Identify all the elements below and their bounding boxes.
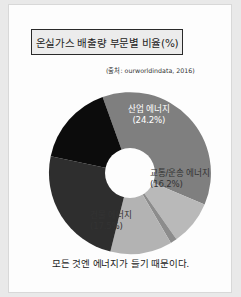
label-transport: 교통/운송 에너지 (16.2%): [150, 168, 210, 190]
label-buildings-value: (17.5%): [90, 221, 132, 232]
label-industry: 산업 에너지 (24.2%): [128, 104, 170, 126]
label-industry-value: (24.2%): [128, 115, 170, 126]
label-buildings-name: 건물 에너지: [90, 210, 132, 221]
label-industry-name: 산업 에너지: [128, 104, 170, 115]
label-buildings: 건물 에너지 (17.5%): [90, 210, 132, 232]
chart-source: (출처: ourworldindata, 2016): [106, 66, 195, 75]
chart-title: 온실가스 배출량 부문별 비율(%): [31, 29, 183, 55]
label-transport-name: 교통/운송 에너지: [150, 168, 210, 179]
donut-hole: [105, 148, 155, 198]
caption-text: 모든 것엔 에너지가 들기 때문이다.: [0, 256, 241, 270]
label-transport-value: (16.2%): [150, 179, 210, 190]
